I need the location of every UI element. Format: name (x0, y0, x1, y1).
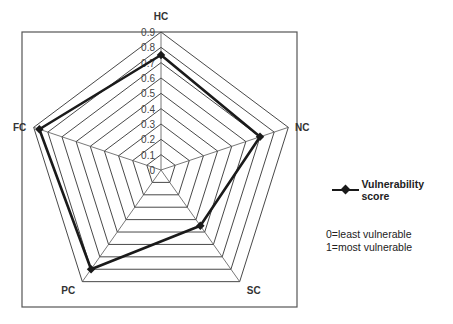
axis-label-sc: SC (247, 285, 261, 296)
axis-label-hc: HC (154, 11, 168, 22)
legend: Vulnerability score (332, 178, 453, 202)
scale-note-min: 0=least vulnerable (326, 228, 412, 241)
tick-label: 0.1 (141, 150, 155, 161)
tick-label: 0.5 (141, 88, 155, 99)
radar-chart: 00.10.20.30.40.50.60.70.80.9 HCNCSCPCFC (0, 0, 453, 324)
legend-line-diamond-icon (332, 186, 359, 194)
tick-label: 0.2 (141, 134, 155, 145)
tick-label: 0.9 (141, 27, 155, 38)
tick-label: 0.4 (141, 104, 155, 115)
scale-note: 0=least vulnerable 1=most vulnerable (326, 228, 412, 254)
legend-label: Vulnerability score (361, 178, 453, 202)
axis-spoke (82, 170, 161, 282)
tick-label: 0.3 (141, 119, 155, 130)
radial-tick-labels: 00.10.20.30.40.50.60.70.80.9 (141, 27, 155, 176)
radar-grid (34, 32, 289, 282)
axis-label-fc: FC (13, 122, 26, 133)
tick-label: 0.6 (141, 73, 155, 84)
tick-label: 0 (149, 165, 155, 176)
data-point-diamond-icon (87, 265, 95, 273)
tick-label: 0.8 (141, 42, 155, 53)
scale-note-max: 1=most vulnerable (326, 241, 412, 254)
axis-label-nc: NC (295, 122, 309, 133)
axis-label-pc: PC (61, 285, 75, 296)
